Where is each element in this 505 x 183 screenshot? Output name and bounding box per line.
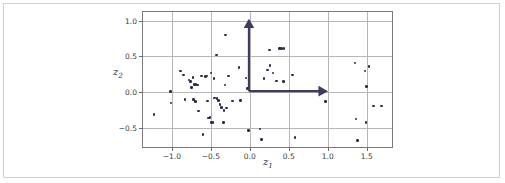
scatter-point: [184, 98, 187, 101]
scatter-point: [246, 87, 249, 90]
scatter-point: [169, 90, 172, 93]
x-tick-label: −0.5: [202, 152, 220, 161]
y-tick-label: 0.5: [125, 52, 137, 61]
scatter-point: [365, 121, 368, 124]
scatter-point: [266, 69, 269, 72]
x-tick-mark: [289, 147, 290, 151]
x-tick-label: 1.5: [361, 152, 373, 161]
basis-vector-arrows: [143, 12, 392, 147]
scatter-point: [324, 100, 327, 103]
scatter-point: [222, 121, 225, 124]
gridline-vertical: [211, 12, 212, 147]
plot-axes: −1.0−0.50.00.51.01.5−0.50.00.51.0: [142, 11, 393, 148]
scatter-point: [224, 34, 227, 37]
y-tick-label: 1.0: [125, 16, 137, 25]
scatter-point: [263, 77, 266, 80]
gridline-vertical: [250, 12, 251, 147]
scatter-point: [227, 75, 230, 78]
gridline-vertical: [289, 12, 290, 147]
scatter-point: [368, 65, 371, 68]
scatter-point: [197, 110, 200, 113]
scatter-point: [223, 109, 226, 112]
scatter-point: [179, 70, 182, 73]
gridline-vertical: [328, 12, 329, 147]
scatter-point: [194, 100, 197, 103]
x-axis-label: z1: [263, 156, 273, 170]
scatter-point: [192, 76, 195, 79]
gridline-vertical: [172, 12, 173, 147]
y-tick-label: 0.0: [125, 88, 137, 97]
scatter-point: [355, 118, 358, 121]
scatter-point: [365, 85, 368, 88]
scatter-point: [190, 86, 193, 89]
scatter-point: [206, 75, 209, 78]
scatter-point: [189, 80, 192, 83]
gridline-horizontal: [143, 128, 392, 129]
scatter-point: [153, 113, 156, 116]
scatter-point: [212, 121, 215, 124]
x-tick-label: 0.5: [283, 152, 295, 161]
scatter-point: [294, 136, 297, 139]
scatter-point: [259, 128, 262, 131]
x-tick-mark: [367, 147, 368, 151]
scatter-point: [268, 49, 271, 52]
figure-canvas: −1.0−0.50.00.51.01.5−0.50.00.51.0 z1 z2: [0, 0, 505, 183]
scatter-point: [245, 77, 248, 80]
gridline-horizontal: [143, 56, 392, 57]
scatter-point: [231, 100, 234, 103]
gridline-horizontal: [143, 92, 392, 93]
y-tick-mark: [139, 56, 143, 57]
scatter-point: [356, 139, 359, 142]
scatter-point: [247, 129, 250, 132]
y-axis-label-subscript: 2: [118, 71, 123, 80]
scatter-point: [239, 99, 242, 102]
scatter-point: [372, 105, 375, 108]
x-tick-mark: [250, 147, 251, 151]
gridline-horizontal: [143, 21, 392, 22]
scatter-point: [282, 80, 285, 83]
scatter-point: [291, 74, 294, 77]
x-tick-mark: [211, 147, 212, 151]
x-axis-label-subscript: 1: [268, 161, 273, 170]
scatter-point: [225, 107, 228, 110]
scatter-point: [275, 80, 278, 83]
scatter-point: [380, 105, 383, 108]
x-tick-label: 0.0: [244, 152, 256, 161]
scatter-point: [238, 66, 241, 69]
scatter-point: [217, 99, 220, 102]
scatter-point: [213, 77, 216, 80]
y-tick-mark: [139, 128, 143, 129]
scatter-point: [354, 62, 357, 65]
y-axis-label: z2: [113, 66, 123, 80]
x-tick-mark: [172, 147, 173, 151]
x-tick-label: 1.0: [322, 152, 334, 161]
scatter-point: [283, 47, 286, 50]
y-tick-label: −0.5: [119, 124, 137, 133]
scatter-point: [196, 84, 199, 87]
x-tick-label: −1.0: [163, 152, 181, 161]
scatter-point: [272, 72, 275, 75]
scatter-point: [269, 64, 272, 67]
scatter-point: [224, 84, 227, 87]
gridline-vertical: [367, 12, 368, 147]
x-tick-mark: [328, 147, 329, 151]
scatter-point: [200, 75, 203, 78]
y-tick-mark: [139, 21, 143, 22]
y-tick-mark: [139, 92, 143, 93]
scatter-point: [202, 133, 205, 136]
scatter-point: [182, 74, 185, 77]
scatter-point: [206, 100, 209, 103]
scatter-point: [215, 54, 218, 57]
scatter-point: [260, 138, 263, 141]
